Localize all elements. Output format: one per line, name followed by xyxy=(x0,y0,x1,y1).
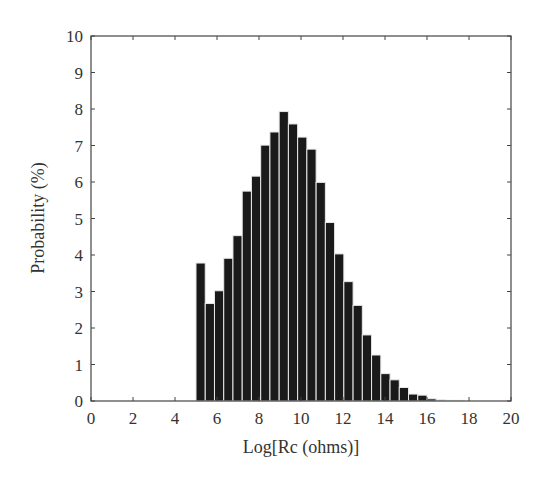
x-tick-label: 2 xyxy=(129,409,138,428)
x-tick-label: 10 xyxy=(293,409,310,428)
histogram-bar xyxy=(298,137,307,401)
histogram-bar xyxy=(196,263,205,401)
histogram-bar xyxy=(409,394,418,401)
histogram-bar xyxy=(214,291,223,401)
x-tick-label: 12 xyxy=(335,409,352,428)
y-tick-label: 8 xyxy=(75,100,84,119)
histogram-bar xyxy=(353,305,362,401)
x-tick-label: 0 xyxy=(87,409,96,428)
y-tick-label: 5 xyxy=(75,210,84,229)
histogram-bar xyxy=(316,182,325,401)
histogram-bar xyxy=(233,236,242,401)
x-tick-label: 4 xyxy=(171,409,180,428)
x-tick-label: 20 xyxy=(503,409,520,428)
x-tick-label: 6 xyxy=(213,409,222,428)
histogram-bar xyxy=(390,380,399,401)
histogram-bar xyxy=(251,176,260,401)
histogram-chart: 012345678910 02468101214161820 Log[Rc (o… xyxy=(0,0,544,481)
y-tick-label: 3 xyxy=(75,283,84,302)
histogram-bar xyxy=(307,149,316,401)
histogram-bar xyxy=(399,388,408,402)
x-tick-label: 18 xyxy=(461,409,478,428)
histogram-bar xyxy=(205,304,214,401)
histogram-bar xyxy=(270,132,279,401)
histogram-bar xyxy=(279,112,288,401)
histogram-bar xyxy=(288,124,297,401)
y-tick-label: 9 xyxy=(75,64,84,83)
bars-group xyxy=(196,112,464,401)
histogram-bar xyxy=(335,254,344,401)
histogram-bar xyxy=(325,223,334,401)
y-tick-label: 1 xyxy=(75,356,84,375)
x-tick-label: 14 xyxy=(377,409,395,428)
y-tick-label: 4 xyxy=(75,246,84,265)
y-tick-label: 10 xyxy=(66,27,83,46)
histogram-bar xyxy=(418,395,427,401)
histogram-bar xyxy=(344,282,353,401)
x-tick-label: 8 xyxy=(255,409,264,428)
histogram-bar xyxy=(261,145,270,401)
y-tick-label: 7 xyxy=(75,137,84,156)
histogram-bar xyxy=(242,191,251,401)
histogram-bar xyxy=(372,355,381,401)
histogram-bar xyxy=(381,374,390,401)
x-axis-title: Log[Rc (ohms)] xyxy=(243,437,359,458)
x-tick-label: 16 xyxy=(419,409,436,428)
y-tick-label: 0 xyxy=(75,392,84,411)
y-tick-label: 2 xyxy=(75,319,84,338)
histogram-bar xyxy=(224,258,233,401)
y-axis-title: Probability (%) xyxy=(28,162,49,273)
histogram-bar xyxy=(362,335,371,401)
y-tick-label: 6 xyxy=(75,173,84,192)
